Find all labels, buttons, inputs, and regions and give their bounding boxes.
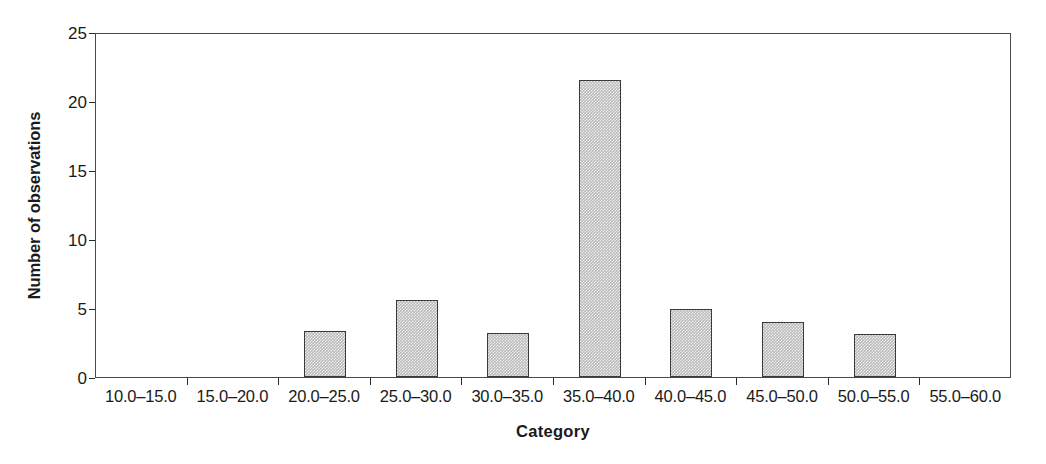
y-axis-tick-mark (89, 102, 95, 103)
y-axis-tick-mark (89, 378, 95, 379)
x-axis-tick-label: 35.0–40.0 (563, 388, 635, 405)
x-axis-tick-label: 30.0–35.0 (471, 388, 543, 405)
x-axis-tick-mark (828, 378, 829, 385)
bar-40-0-45-0 (670, 309, 712, 377)
y-axis-tick-label: 25 (47, 25, 87, 42)
x-axis-tick-mark (645, 378, 646, 385)
y-axis-tick-label: 0 (47, 370, 87, 387)
x-axis-tick-mark (461, 378, 462, 385)
x-axis-tick-label: 45.0–50.0 (746, 388, 818, 405)
bar-30-0-35-0 (487, 333, 529, 377)
bar-45-0-50-0 (762, 322, 804, 377)
bar-25-0-30-0 (396, 300, 438, 377)
y-axis-tick-label: 20 (47, 94, 87, 111)
y-axis-tick-mark (89, 33, 95, 34)
x-axis-tick-mark (553, 378, 554, 385)
y-axis-tick-mark (89, 240, 95, 241)
y-axis-tick-label: 10 (47, 232, 87, 249)
x-axis-tick-mark (370, 378, 371, 385)
y-axis-tick-labels: 0510152025 (40, 0, 87, 464)
x-axis-tick-mark (187, 378, 188, 385)
x-axis-tick-label: 10.0–15.0 (105, 388, 177, 405)
bar-20-0-25-0 (304, 331, 346, 377)
y-axis-tick-label: 15 (47, 163, 87, 180)
bar-50-0-55-0 (854, 334, 896, 377)
y-axis-tick-mark (89, 171, 95, 172)
y-axis-tick-label: 5 (47, 301, 87, 318)
histogram-figure: Number of observations 0510152025 Catego… (0, 0, 1046, 464)
x-axis-tick-mark (278, 378, 279, 385)
x-axis-tick-label: 50.0–55.0 (838, 388, 910, 405)
x-axis-tick-label: 15.0–20.0 (197, 388, 269, 405)
plot-area (95, 33, 1011, 378)
x-axis-tick-label: 20.0–25.0 (288, 388, 360, 405)
x-axis-tick-mark (919, 378, 920, 385)
x-axis-tick-label: 55.0–60.0 (929, 388, 1001, 405)
x-axis-tick-label: 40.0–45.0 (655, 388, 727, 405)
x-axis-tick-label: 25.0–30.0 (380, 388, 452, 405)
x-axis-tick-mark (736, 378, 737, 385)
x-axis-title: Category (95, 422, 1011, 441)
bar-35-0-40-0 (579, 80, 621, 377)
y-axis-tick-mark (89, 309, 95, 310)
